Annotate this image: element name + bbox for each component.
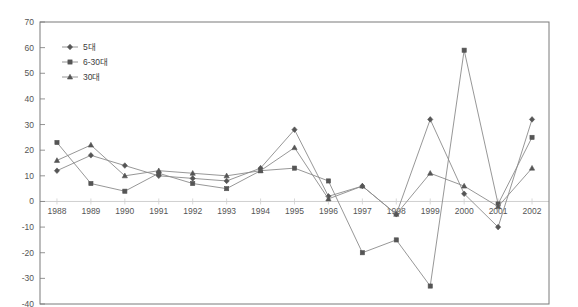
y-tick-label: 70 xyxy=(25,17,35,27)
x-tick-label: 1989 xyxy=(81,206,100,216)
x-tick-label: 1988 xyxy=(48,206,67,216)
y-tick-label: -40 xyxy=(22,299,35,307)
data-point-marker xyxy=(123,189,127,193)
x-tick-label: 1997 xyxy=(353,206,372,216)
x-tick-label: 1995 xyxy=(285,206,304,216)
y-tick-label: 60 xyxy=(25,43,35,53)
x-tick-label: 1992 xyxy=(183,206,202,216)
chart-title xyxy=(0,0,578,7)
legend-label: 6-30대 xyxy=(83,57,108,67)
x-tick-label: 1999 xyxy=(421,206,440,216)
y-tick-label: -10 xyxy=(22,222,35,232)
x-tick-label: 1991 xyxy=(149,206,168,216)
y-tick-label: 30 xyxy=(25,120,35,130)
data-point-marker xyxy=(326,179,330,183)
line-chart: 706050403020100-10-20-30-40 198819891990… xyxy=(0,0,578,307)
x-tick-label: 2000 xyxy=(455,206,474,216)
x-tick-label: 2002 xyxy=(523,206,542,216)
y-tick-label: 0 xyxy=(29,196,34,206)
data-point-marker xyxy=(394,238,398,242)
legend-label: 30대 xyxy=(83,72,100,82)
x-tick-label: 1996 xyxy=(319,206,338,216)
chart-container: 706050403020100-10-20-30-40 198819891990… xyxy=(0,0,578,307)
y-tick-label: -20 xyxy=(22,248,35,258)
data-point-marker xyxy=(55,140,59,144)
y-tick-label: -30 xyxy=(22,273,35,283)
data-point-marker xyxy=(360,251,364,255)
x-tick-label: 1994 xyxy=(251,206,270,216)
data-point-marker xyxy=(68,60,72,64)
data-point-marker xyxy=(89,181,93,185)
y-tick-label: 50 xyxy=(25,68,35,78)
x-tick-label: 1990 xyxy=(115,206,134,216)
data-point-marker xyxy=(428,284,432,288)
x-tick-label: 1993 xyxy=(217,206,236,216)
data-point-marker xyxy=(225,187,229,191)
data-point-marker xyxy=(530,135,534,139)
data-point-marker xyxy=(462,48,466,52)
y-tick-label: 20 xyxy=(25,145,35,155)
legend-label: 5대 xyxy=(83,42,96,52)
data-point-marker xyxy=(292,166,296,170)
y-tick-label: 40 xyxy=(25,94,35,104)
y-tick-label: 10 xyxy=(25,171,35,181)
data-point-marker xyxy=(191,181,195,185)
